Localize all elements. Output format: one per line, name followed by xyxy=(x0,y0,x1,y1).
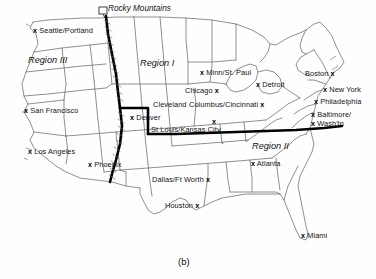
city-marker-x: x xyxy=(200,68,204,77)
city-label-los-angeles: Los Angeles xyxy=(34,147,75,156)
city-marker-x: x xyxy=(311,119,315,128)
city-cleveland: Cleveland xyxy=(153,101,187,108)
city-label-houston: Houston xyxy=(165,201,193,210)
city-label-new-york: New York xyxy=(329,85,361,94)
region-label-region-2: Region II xyxy=(252,142,289,151)
rocky-mountains-label: Rocky Mountains xyxy=(108,5,171,13)
city-miami: x Miami xyxy=(301,232,327,239)
city-label-baltimore: Baltimore/ xyxy=(317,110,351,119)
city-label-chicago: Chicago xyxy=(185,86,213,95)
city-marker-x: x xyxy=(130,113,134,122)
city-label-phoenix: Phoenix xyxy=(94,160,121,169)
city-los-angeles: x Los Angeles xyxy=(28,148,75,155)
city-marker-x: x xyxy=(301,231,305,240)
city-marker-x: x xyxy=(331,69,335,78)
city-marker-x: x xyxy=(260,100,264,109)
city-houston: Houston x xyxy=(165,202,199,209)
city-philadelphia: x Philadelphia xyxy=(314,98,361,105)
region-label-region-1: Region I xyxy=(140,59,174,68)
city-marker-x: x xyxy=(24,106,28,115)
city-marker-x-st-louis: x xyxy=(212,118,216,125)
figure-caption: (b) xyxy=(178,256,190,267)
city-marker-x: x xyxy=(311,110,315,119)
city-label-seattle-portland: Seattle/Portland xyxy=(39,26,93,35)
city-label-dallas-ft-worth: Dallas/Ft Worth xyxy=(152,175,204,184)
city-label-minn-st-paul: Minn/St. Paul xyxy=(206,68,251,77)
city-dallas-ft-worth: Dallas/Ft Worth x xyxy=(152,176,210,183)
city-label-washington: Wash'tn xyxy=(317,119,344,128)
city-label-detroit: Detroit xyxy=(262,80,284,89)
city-marker-x: x xyxy=(256,80,260,89)
city-seattle-portland: x Seattle/Portland xyxy=(33,27,93,34)
boundary-west xyxy=(106,16,120,108)
boundary-west-south xyxy=(110,108,122,182)
city-boston: Boston x xyxy=(305,70,335,77)
city-san-francisco: x San Francisco xyxy=(24,107,78,114)
city-marker-x: x xyxy=(314,97,318,106)
city-minn-st-paul: x Minn/St. Paul xyxy=(200,69,251,76)
city-marker-x: x xyxy=(33,26,37,35)
city-marker-x: x xyxy=(206,175,210,184)
city-st-louis-kansas-city: St Louis/Kansas City xyxy=(151,126,221,133)
city-atlanta: x Atlanta xyxy=(251,160,280,167)
city-new-york: x New York xyxy=(323,86,361,93)
figure-container: Region III Region I Region II Rocky Moun… xyxy=(0,0,376,279)
city-label-san-francisco: San Francisco xyxy=(30,106,78,115)
city-label-st-louis-kansas-city: St Louis/Kansas City xyxy=(151,125,221,134)
city-marker-x: x xyxy=(251,159,255,168)
city-detroit: x Detroit xyxy=(256,81,285,88)
city-marker-x: x xyxy=(88,160,92,169)
city-baltimore-washington: x Baltimore/ xyxy=(311,111,351,118)
boundary-hatching xyxy=(104,20,124,179)
city-columbus-cincinnati: Columbus/Cincinnati x xyxy=(189,101,264,108)
city-marker-x: x xyxy=(195,201,199,210)
city-label-boston: Boston xyxy=(305,69,328,78)
city-chicago: Chicago x xyxy=(185,87,219,94)
city-label-columbus-cincinnati: Columbus/Cincinnati xyxy=(189,100,258,109)
city-label-denver: Denver xyxy=(136,113,160,122)
city-washington-line2: x Wash'tn xyxy=(311,120,344,127)
city-label-miami: Miami xyxy=(307,231,327,240)
city-marker-x: x xyxy=(323,85,327,94)
city-label-philadelphia: Philadelphia xyxy=(320,97,361,106)
city-phoenix: x Phoenix xyxy=(88,161,121,168)
city-marker-x: x xyxy=(215,86,219,95)
city-label-cleveland: Cleveland xyxy=(153,100,187,109)
region-label-region-3: Region III xyxy=(28,56,67,65)
city-denver: x Denver xyxy=(130,114,161,121)
city-marker-x: x xyxy=(28,147,32,156)
city-label-atlanta: Atlanta xyxy=(257,159,281,168)
